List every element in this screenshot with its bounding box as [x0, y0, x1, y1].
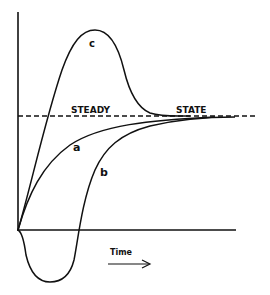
curve-b — [18, 117, 235, 282]
curve-b-label: b — [100, 166, 108, 179]
state-label: STATE — [176, 105, 206, 115]
curve-a-label: a — [73, 141, 80, 154]
time-label: Time — [110, 248, 133, 257]
curve-a — [18, 117, 215, 230]
response-curves-diagram: c a b STEADY STATE Time — [0, 0, 270, 295]
steady-label: STEADY — [71, 105, 111, 115]
curve-c-label: c — [89, 38, 95, 49]
